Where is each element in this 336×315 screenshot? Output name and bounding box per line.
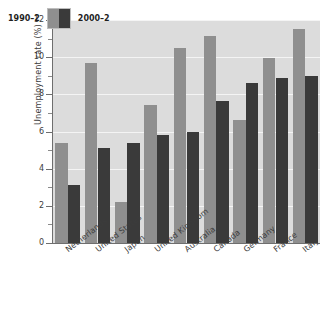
- y-tick-minor: [48, 150, 52, 151]
- y-tick-major: [46, 132, 52, 133]
- chart-legend: 1990–2 2000–2: [8, 8, 110, 29]
- bar-group: [293, 20, 318, 243]
- bar-group: [263, 20, 288, 243]
- y-tick-label: 8: [14, 90, 44, 98]
- y-tick-major: [46, 94, 52, 95]
- y-tick-label: 4: [14, 165, 44, 173]
- y-tick-label: 10: [14, 53, 44, 61]
- bar: [233, 120, 245, 243]
- bar: [55, 143, 67, 243]
- bar: [276, 78, 288, 243]
- bar-group: [233, 20, 258, 243]
- y-tick-minor: [48, 113, 52, 114]
- chart-figure: Unemployment rate (%) 024681012 Netherla…: [0, 0, 336, 315]
- bar-group: [115, 20, 140, 243]
- bar: [144, 105, 156, 243]
- bar-group: [174, 20, 199, 243]
- legend-label-series-1: 2000–2: [78, 14, 110, 23]
- bar: [263, 58, 275, 243]
- bar: [293, 29, 305, 243]
- y-tick-major: [46, 243, 52, 244]
- bar: [216, 101, 228, 243]
- y-tick-minor: [48, 39, 52, 40]
- plot-area: [53, 20, 320, 243]
- y-tick-label: 0: [14, 239, 44, 247]
- y-tick-minor: [48, 76, 52, 77]
- y-tick-label: 2: [14, 202, 44, 210]
- bar: [157, 135, 169, 243]
- bar-group: [85, 20, 110, 243]
- legend-label-series-0: 1990–2: [8, 14, 40, 23]
- y-tick-major: [46, 206, 52, 207]
- y-tick-minor: [48, 187, 52, 188]
- legend-swatch-light: [48, 9, 59, 28]
- bar: [85, 63, 97, 243]
- y-tick-major: [46, 57, 52, 58]
- bar: [174, 48, 186, 243]
- y-tick-minor: [48, 224, 52, 225]
- legend-swatch-dark: [59, 9, 70, 28]
- bar-group: [55, 20, 80, 243]
- bar: [305, 76, 317, 243]
- y-tick-major: [46, 169, 52, 170]
- bar: [246, 83, 258, 243]
- bar-group: [144, 20, 169, 243]
- y-tick-label: 6: [14, 128, 44, 136]
- legend-swatch: [47, 8, 71, 29]
